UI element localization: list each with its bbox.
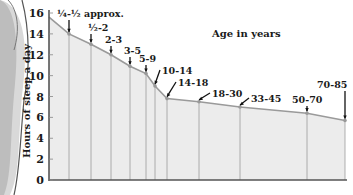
age-label: ½-2 — [88, 22, 108, 33]
y-tick-label: 12 — [29, 49, 44, 62]
chart-title: Age in years — [211, 28, 281, 39]
age-label: 5-9 — [139, 53, 157, 64]
data-point — [67, 32, 71, 36]
data-point — [238, 105, 242, 109]
age-label: 70-85 — [317, 79, 347, 90]
y-tick-label: 10 — [29, 70, 45, 83]
data-point — [109, 53, 113, 57]
data-point — [153, 84, 157, 88]
age-label: 10-14 — [162, 65, 193, 76]
y-tick-label: 2 — [36, 153, 44, 166]
chart-svg: Age in years Hours of sleep a day 024681… — [0, 0, 353, 195]
data-point — [343, 119, 347, 123]
y-tick-label: 8 — [36, 91, 44, 104]
data-point — [165, 97, 169, 101]
age-label: 2-3 — [105, 34, 122, 45]
data-point — [128, 64, 132, 68]
age-label: 14-18 — [178, 77, 209, 88]
data-point — [197, 100, 201, 104]
age-label: ¼-½ approx. — [57, 8, 124, 19]
y-tick-label: 14 — [29, 28, 45, 41]
sleep-chart: Age in years Hours of sleep a day 024681… — [0, 0, 353, 195]
data-point — [89, 43, 93, 47]
y-tick-label: 4 — [36, 132, 44, 145]
y-tick-label: 16 — [29, 7, 45, 20]
data-point — [305, 111, 309, 115]
age-label: 18-30 — [212, 88, 243, 99]
data-point — [144, 72, 148, 76]
age-label: 50-70 — [292, 94, 323, 105]
y-tick-label: 0 — [36, 174, 44, 187]
y-tick-label: 6 — [36, 111, 44, 124]
age-label: 33-45 — [251, 93, 281, 104]
